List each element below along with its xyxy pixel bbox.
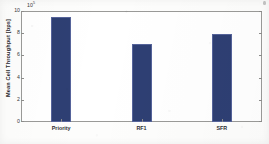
scan-artifact-speck [263, 1, 266, 5]
bar [212, 34, 232, 122]
bar-series [21, 11, 262, 122]
chart-screenshot: 105 Mean Cell Throughput [bps] 0246810 P… [0, 0, 269, 144]
y-axis-tick-label: 0 [0, 119, 20, 124]
y-axis-tick-labels: 0246810 [0, 11, 20, 122]
y-axis-exponent-label: 105 [27, 1, 35, 8]
x-axis-tick-labels: PriorityRF1SFR [21, 126, 262, 138]
y-axis-tick-label: 4 [0, 75, 20, 80]
bar [132, 44, 152, 122]
x-axis-tick-label: Priority [33, 126, 89, 131]
x-axis-tick-label: SFR [194, 126, 250, 131]
y-axis-tick-label: 2 [0, 97, 20, 102]
y-axis-tick-label: 8 [0, 31, 20, 36]
y-axis-exponent-power: 5 [33, 1, 35, 5]
bar [51, 17, 71, 122]
x-axis-tick-label: RF1 [114, 126, 170, 131]
y-axis-tick-label: 10 [0, 8, 20, 13]
y-axis-tick-label: 6 [0, 53, 20, 58]
